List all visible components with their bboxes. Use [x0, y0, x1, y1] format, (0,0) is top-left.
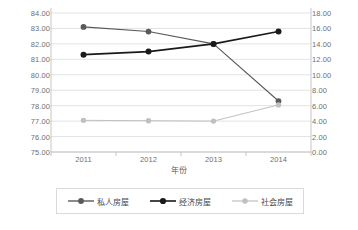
- chart-legend: 私人房屋 经济房屋 社会房屋: [56, 188, 304, 214]
- x-axis-tick-label: 2012: [140, 155, 157, 164]
- y-axis-right-tick-label: 6.00: [312, 101, 327, 110]
- data-point: [81, 118, 86, 123]
- data-point: [146, 49, 152, 55]
- legend-marker-icon: [232, 196, 258, 206]
- y-axis-left-tick-label: 80.00: [31, 70, 50, 79]
- x-axis-tick-label: 2013: [205, 155, 222, 164]
- y-axis-right-tick-label: 14.00: [312, 39, 331, 48]
- legend-label: 经济房屋: [179, 196, 211, 207]
- data-point: [81, 24, 87, 30]
- y-axis-right-tick-label: 2.00: [312, 132, 327, 141]
- data-series-group: [81, 24, 282, 124]
- series-2: [81, 29, 282, 58]
- data-point: [146, 118, 151, 123]
- axis-lines: [51, 8, 311, 152]
- legend-label: 私人房屋: [97, 196, 129, 207]
- y-axis-left-tick-label: 83.00: [31, 24, 50, 33]
- data-point: [276, 29, 282, 35]
- data-point: [81, 52, 87, 58]
- y-axis-right-tick-label: 10.00: [312, 70, 331, 79]
- legend-item-private-housing[interactable]: 私人房屋: [68, 196, 129, 207]
- x-axis-tick-label: 2011: [75, 155, 92, 164]
- y-axis-left-tick-label: 84.00: [31, 9, 50, 18]
- legend-label: 社会房屋: [261, 196, 293, 207]
- x-axis-title: 年份: [0, 164, 358, 175]
- dual-axis-line-chart: 75.0076.0077.0078.0079.0080.0081.0082.00…: [0, 0, 358, 230]
- data-point: [146, 29, 152, 35]
- x-axis-tick-label: 2014: [270, 155, 287, 164]
- data-point: [276, 102, 281, 107]
- y-axis-left-tick-label: 79.00: [31, 86, 50, 95]
- y-axis-left-tick-label: 77.00: [31, 117, 50, 126]
- y-axis-right-tick-label: 18.00: [312, 9, 331, 18]
- y-axis-right-tick-label: 4.00: [312, 117, 327, 126]
- y-axis-left-tick-label: 76.00: [31, 132, 50, 141]
- y-axis-left-tick-label: 82.00: [31, 39, 50, 48]
- data-point: [211, 41, 217, 47]
- y-axis-right-tick-label: 8.00: [312, 86, 327, 95]
- y-axis-right: 0.002.004.006.008.0010.0012.0014.0016.00…: [312, 0, 356, 230]
- y-axis-left-tick-label: 81.00: [31, 55, 50, 64]
- y-axis-left-tick-label: 78.00: [31, 101, 50, 110]
- legend-item-social-housing[interactable]: 社会房屋: [232, 196, 293, 207]
- x-axis: 2011201220132014: [0, 150, 358, 164]
- gridlines: [51, 13, 311, 152]
- y-axis-left: 75.0076.0077.0078.0079.0080.0081.0082.00…: [8, 0, 50, 230]
- data-point: [211, 118, 216, 123]
- y-axis-right-tick-label: 12.00: [312, 55, 331, 64]
- legend-item-economic-housing[interactable]: 经济房屋: [150, 196, 211, 207]
- legend-marker-icon: [68, 196, 94, 206]
- legend-marker-icon: [150, 196, 176, 206]
- y-axis-right-tick-label: 16.00: [312, 24, 331, 33]
